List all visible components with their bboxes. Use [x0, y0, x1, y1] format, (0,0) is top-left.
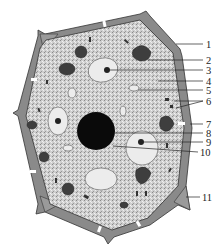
label-5: 5	[206, 86, 211, 96]
nucleus	[77, 112, 115, 150]
label-10: 10	[200, 148, 211, 158]
cell-illustration	[0, 0, 222, 247]
plant-cell-diagram: 1 2 3 4 5 6 7 8 9 10 11	[0, 0, 222, 247]
label-6: 6	[206, 97, 211, 107]
label-1: 1	[206, 40, 211, 50]
label-3: 3	[206, 66, 211, 76]
label-11: 11	[202, 193, 212, 203]
